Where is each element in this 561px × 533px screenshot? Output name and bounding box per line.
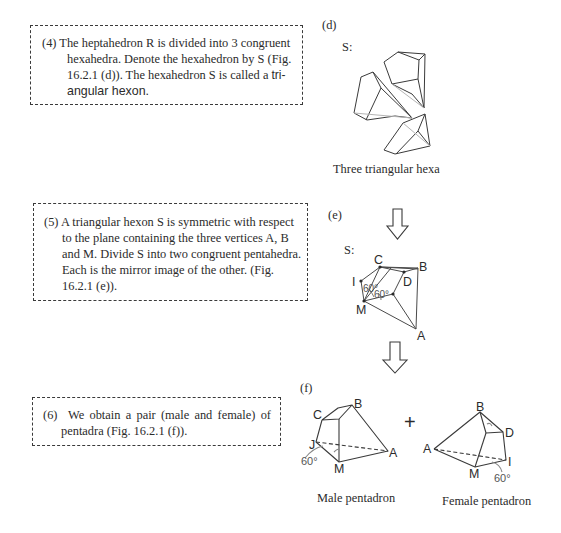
male-pentadron-caption: Male pentadron — [317, 491, 395, 506]
vertex-label-I: I — [508, 455, 511, 469]
plus-operator: + — [404, 411, 416, 434]
vertex-label-A: A — [417, 329, 425, 343]
vertex-label-A: A — [423, 442, 431, 456]
step-6-box: (6) We obtain a pair (male and female) o… — [32, 397, 281, 446]
figure-d-caption: Three triangular hexa — [333, 162, 440, 177]
step-number: (4) — [42, 36, 56, 50]
vertex-label-B: B — [354, 397, 362, 411]
vertex-label-M: M — [469, 467, 479, 481]
vertex-label-B: B — [419, 260, 427, 274]
figure-e-tag: (e) — [328, 208, 342, 223]
step-6-text: (6) We obtain a pair (male and female) o… — [43, 407, 271, 439]
figure-e-shape-label: S: — [344, 243, 354, 258]
step-4-box: (4) The heptahedron R is divided into 3 … — [30, 25, 303, 105]
angle-label: 60° — [494, 472, 511, 484]
figure-f-tag: (f) — [300, 381, 312, 396]
vertex-label-B: B — [476, 400, 484, 414]
vertex-label-C: C — [374, 253, 383, 267]
vertex-label-C: C — [313, 408, 322, 422]
vertex-label-D: D — [505, 426, 514, 440]
step-4-text: (4) The heptahedron R is divided into 3 … — [42, 35, 294, 99]
step-number: (5) — [44, 215, 58, 229]
angle-label: 60° — [374, 289, 389, 300]
vertex-label-M: M — [334, 462, 344, 476]
step-number: (6) — [43, 408, 57, 422]
vertex-label-I: I — [352, 275, 355, 289]
step-5-text: (5) A triangular hexon S is symmetric wi… — [44, 214, 304, 294]
vertex-label-M: M — [356, 303, 366, 317]
step-5-box: (5) A triangular hexon S is symmetric wi… — [33, 203, 308, 301]
vertex-label-D: D — [403, 275, 412, 289]
female-pentadron-caption: Female pentadron — [442, 494, 531, 509]
vertex-label-J: J — [309, 438, 315, 452]
vertex-label-A: A — [389, 446, 397, 460]
figure-d-tag: (d) — [322, 18, 336, 33]
angle-label: 60° — [301, 455, 318, 467]
figure-d-shape-label: S: — [342, 40, 352, 55]
